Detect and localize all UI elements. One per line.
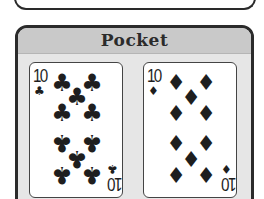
card-ten-of-clubs[interactable]: 10 ♣ ♣ ♣ ♣ ♣ ♣ ♣ ♣ ♣ ♣ ♣ ♣ 10 (29, 62, 123, 198)
diamond-icon: ♦ (194, 165, 218, 187)
previous-panel-bottom (14, 0, 256, 10)
diamond-icon: ♦ (164, 165, 188, 187)
club-icon: ♣ (50, 163, 74, 187)
club-icon: ♣ (80, 101, 104, 125)
pocket-header: Pocket (18, 28, 251, 54)
pocket-title: Pocket (101, 30, 168, 50)
club-icon: ♣ (50, 101, 74, 125)
diamond-icon: ♦ (148, 85, 159, 97)
pocket-panel: Pocket 10 ♣ ♣ ♣ ♣ ♣ ♣ ♣ ♣ ♣ ♣ ♣ ♣ 10 10 … (15, 25, 254, 199)
card-rank: 10 (109, 173, 123, 195)
diamond-icon: ♦ (194, 103, 218, 125)
diamond-icon: ♦ (164, 103, 188, 125)
club-icon: ♣ (34, 85, 45, 97)
card-ten-of-diamonds[interactable]: 10 ♦ ♦ ♦ ♦ ♦ ♦ ♦ ♦ ♦ ♦ ♦ ♦ 10 (143, 62, 237, 198)
card-rank: 10 (223, 173, 237, 195)
club-icon: ♣ (80, 163, 104, 187)
